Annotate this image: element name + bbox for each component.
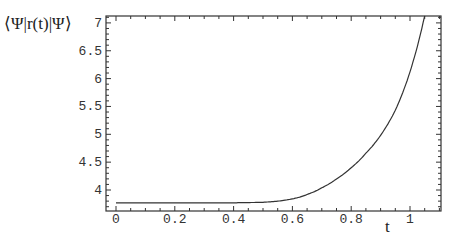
y-tick-label: 7 — [94, 16, 102, 31]
x-tick-label: 0.6 — [281, 212, 304, 227]
x-tick-label: 0.2 — [163, 212, 186, 227]
y-tick-labels: 44.555.566.57 — [79, 16, 103, 198]
y-tick-label: 6 — [94, 72, 102, 87]
axis-ticks — [106, 16, 441, 211]
x-tick-labels: 00.20.40.60.81 — [112, 212, 414, 227]
x-tick-label: 0.4 — [222, 212, 246, 227]
y-tick-label: 6.5 — [79, 44, 102, 59]
y-tick-label: 4.5 — [79, 155, 102, 170]
axes-box — [106, 16, 441, 211]
data-curve — [116, 16, 425, 203]
y-tick-label: 5.5 — [79, 99, 102, 114]
y-tick-label: 4 — [94, 183, 102, 198]
y-tick-label: 5 — [94, 127, 102, 142]
x-tick-label: 0.8 — [339, 212, 362, 227]
plot-frame — [106, 16, 441, 211]
x-tick-label: 0 — [112, 212, 120, 227]
line-chart: 00.20.40.60.81 44.555.566.57 ⟨Ψ|r(t)|Ψ⟩ … — [0, 0, 459, 241]
x-axis-label: t — [385, 217, 390, 236]
y-axis-label: ⟨Ψ|r(t)|Ψ⟩ — [4, 14, 72, 33]
x-tick-label: 1 — [406, 212, 414, 227]
